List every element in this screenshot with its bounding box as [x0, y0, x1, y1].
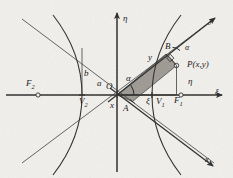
hyperbola-diagram: η ξ y x O F2 F1 V2 V1 a b α α x A B P(x,… [0, 0, 233, 178]
vertex-right-label: V1 [156, 97, 165, 108]
focus-right-label: F1 [174, 96, 183, 107]
strip-y-label: y [148, 53, 152, 62]
eta-axis-label: η [123, 14, 127, 23]
focus-left-subscript: 2 [32, 83, 35, 90]
focus-right-subscript: 1 [180, 100, 183, 107]
focus-left-label: F2 [26, 79, 35, 90]
vertex-right-subscript: 1 [162, 101, 165, 108]
point-x-foot-label: x [110, 101, 114, 110]
x-axis-label: x [205, 155, 209, 164]
y-axis-label: y [209, 16, 213, 25]
point-A-label: A [123, 104, 129, 113]
eta-segment-label: η [188, 77, 192, 86]
point-B-label: B [165, 42, 171, 51]
xi-axis-label: ξ [215, 88, 219, 97]
semi-axis-a-label: a [97, 79, 102, 88]
angle-alpha-origin-label: α [126, 74, 131, 83]
xi-segment-label: ξ [146, 97, 150, 106]
semi-axis-b-label: b [84, 69, 89, 78]
point-P-coordinates: (x,y) [193, 59, 209, 69]
origin-label: O [106, 82, 113, 91]
point-P-label: P(x,y) [187, 60, 209, 69]
angle-alpha-point-label: α [185, 44, 189, 52]
vertex-left-subscript: 2 [85, 101, 88, 108]
vertex-left-label: V2 [79, 97, 88, 108]
